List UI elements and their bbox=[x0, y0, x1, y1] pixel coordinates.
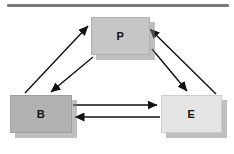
edge-p-to-e-arrow bbox=[152, 49, 187, 91]
edge-e-to-p-arrow bbox=[150, 29, 216, 94]
node-e-label: E bbox=[188, 108, 196, 120]
node-e: E bbox=[161, 95, 222, 133]
node-p: P bbox=[91, 17, 150, 55]
edge-b-to-p-arrow bbox=[25, 26, 88, 93]
edge-p-to-b-arrow bbox=[51, 57, 93, 92]
node-b: B bbox=[10, 95, 72, 133]
node-b-label: B bbox=[37, 108, 45, 120]
diagram-canvas: P B E bbox=[0, 0, 234, 154]
node-p-label: P bbox=[117, 30, 125, 42]
